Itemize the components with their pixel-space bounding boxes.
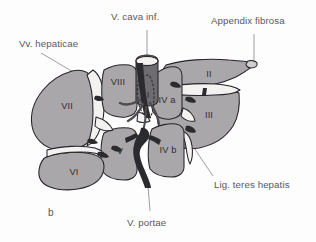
label-segment-8: VIII (111, 77, 125, 87)
label-segment-7: VII (61, 101, 73, 111)
label-segment-6: VI (70, 167, 79, 177)
label-segment-3: III (205, 110, 213, 120)
liver-segments-figure: V. cava inf. Appendix fibrosa Vv. hepati… (0, 0, 316, 242)
label-lig-teres-hepatis: Lig. teres hepatis (214, 179, 290, 190)
label-segment-1: I (147, 90, 150, 100)
label-segment-4a: IV a (159, 95, 177, 105)
label-v-cava-inf: V. cava inf. (111, 11, 159, 22)
label-appendix-fibrosa: Appendix fibrosa (211, 15, 285, 26)
segment-8-shape (102, 65, 137, 117)
panel-label: b (48, 207, 54, 218)
label-v-portae: V. portae (127, 217, 166, 228)
label-segment-5: V (117, 146, 124, 156)
label-segment-2: II (206, 69, 211, 79)
label-segment-4b: IV b (160, 145, 177, 155)
label-vv-hepaticae: Vv. hepaticae (19, 38, 78, 49)
appendix-fibrosa-shape (246, 61, 257, 68)
liver-anatomy-diagram: V. cava inf. Appendix fibrosa Vv. hepati… (0, 0, 316, 242)
